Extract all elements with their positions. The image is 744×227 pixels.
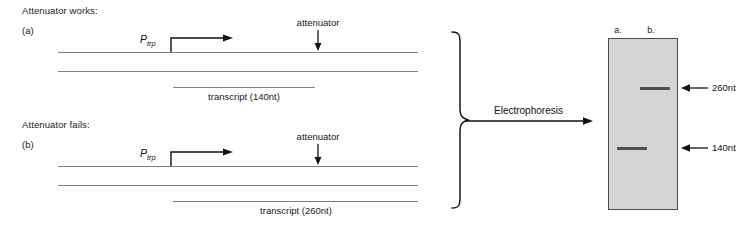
panel-b-promoter-label: Ptrp xyxy=(140,147,156,162)
attenuation-electrophoresis-figure: Attenuator works: (a) attenuator Ptrp tr… xyxy=(0,0,744,227)
gel-lane-label-b: b. xyxy=(637,25,665,35)
panel-b-letter: (b) xyxy=(22,139,34,150)
panel-a-heading: Attenuator works: xyxy=(22,5,98,16)
gel-lane-label-a: a. xyxy=(604,25,632,35)
panel-b-attenuator-arrow-icon xyxy=(308,144,330,166)
panel-b-transcript-line xyxy=(173,201,418,202)
gel-marker-arrow-260nt-icon xyxy=(681,81,709,95)
panel-a-promoter-p: P xyxy=(140,33,147,45)
gel-band-lane-a-140nt xyxy=(617,147,647,150)
gel-marker-label-260nt: 260nt xyxy=(712,82,736,93)
panel-b-promoter-sub: trp xyxy=(147,153,156,162)
panel-a-dna-strand-top xyxy=(58,52,418,53)
panel-b-transcript-caption: transcript (260nt) xyxy=(175,205,417,216)
panel-b-heading: Attenuator fails: xyxy=(22,119,90,130)
gel-marker-arrow-140nt-icon xyxy=(681,141,709,155)
panel-a-promoter-label: Ptrp xyxy=(140,33,156,48)
panel-a-attenuator-label: attenuator xyxy=(278,17,358,28)
panel-a-transcript-line xyxy=(173,87,315,88)
gel-box xyxy=(608,38,678,210)
panel-a-letter: (a) xyxy=(22,25,34,36)
panel-b-dna-strand-bottom xyxy=(58,185,418,186)
panel-a-promoter-sub: trp xyxy=(147,39,156,48)
panel-a-transcript-caption: transcript (140nt) xyxy=(174,91,314,102)
panel-b-promoter-p: P xyxy=(140,147,147,159)
panel-a-dna-strand-bottom xyxy=(58,71,418,72)
panel-b-attenuator-label: attenuator xyxy=(278,131,358,142)
gel-marker-label-140nt: 140nt xyxy=(712,142,736,153)
panel-a-attenuator-arrow-icon xyxy=(308,30,330,52)
panel-b-dna-strand-top xyxy=(58,166,418,167)
process-arrow-icon xyxy=(465,112,597,130)
gel-band-lane-b-260nt xyxy=(640,87,670,90)
